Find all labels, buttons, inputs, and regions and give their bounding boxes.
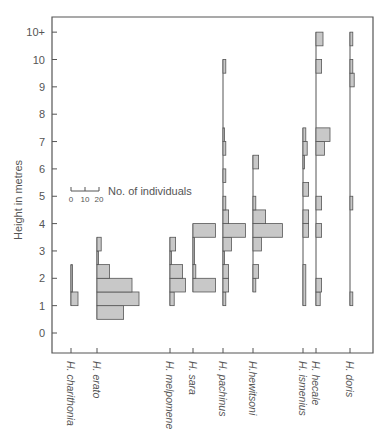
- y-tick-label: 10+: [26, 26, 45, 38]
- species-histogram: [170, 237, 185, 305]
- species-histogram: [303, 128, 309, 306]
- legend: 0 10 20 No. of individuals: [69, 185, 192, 204]
- histogram-bar: [223, 292, 226, 306]
- histogram-bar: [253, 224, 282, 238]
- histogram-bar: [350, 292, 353, 306]
- histogram-bar: [170, 265, 183, 279]
- species-label: H. ismenius: [297, 361, 309, 417]
- histogram-bar: [97, 251, 99, 265]
- histogram-bar: [71, 265, 73, 292]
- histogram-bar: [170, 278, 185, 292]
- histogram-bar: [170, 237, 176, 251]
- histogram-bar: [303, 224, 309, 238]
- histogram-bar: [316, 32, 323, 46]
- y-tick-label: 4: [39, 218, 45, 230]
- y-tick-label: 2: [39, 272, 45, 284]
- y-tick-label: 5: [39, 190, 45, 202]
- histogram-bar: [303, 155, 305, 169]
- histogram-bar: [223, 142, 226, 156]
- y-tick-label: 3: [39, 245, 45, 257]
- histogram-bar: [223, 196, 226, 210]
- histogram-bar: [193, 265, 196, 279]
- species-histograms: [71, 32, 354, 319]
- histogram-bar: [303, 265, 306, 306]
- histogram-bar: [193, 278, 215, 292]
- histogram-bar: [316, 60, 322, 74]
- species-label: H. sara: [187, 361, 199, 395]
- histogram-bar: [223, 210, 229, 224]
- species-label: H. melpomene: [164, 361, 176, 429]
- histogram-bar: [316, 196, 322, 210]
- y-tick-label: 9: [39, 81, 45, 93]
- y-tick-label: 0: [39, 327, 45, 339]
- histogram-bar: [97, 306, 124, 320]
- legend-label: No. of individuals: [108, 185, 192, 197]
- species-label: H. pachinus: [217, 361, 229, 417]
- species-histogram: [253, 155, 282, 292]
- species-histogram: [193, 224, 215, 292]
- histogram-bar: [223, 128, 225, 142]
- legend-scale-0: 0: [69, 195, 74, 204]
- histogram-bar: [223, 169, 226, 183]
- y-tick-label: 8: [39, 108, 45, 120]
- histogram-bar: [316, 292, 320, 306]
- y-axis-title: Height in metres: [12, 159, 24, 240]
- y-tick-label: 7: [39, 136, 45, 148]
- histogram-bar: [223, 251, 225, 265]
- histogram-bar: [303, 210, 309, 224]
- chart-canvas: 01234567891010+ Height in metres 0 10 20…: [0, 0, 389, 436]
- histogram-bar: [316, 224, 322, 238]
- histogram-bar: [350, 32, 353, 46]
- histogram-bar: [253, 155, 259, 169]
- histogram-bar: [316, 128, 330, 142]
- histogram-bar: [303, 183, 309, 197]
- histogram-bar: [253, 278, 256, 292]
- species-label: H. charithonia: [65, 361, 77, 426]
- species-label: H.hewitsoni: [247, 361, 259, 416]
- x-axis-species-labels: H. charithoniaH. eratoH. melpomeneH. sar…: [65, 348, 356, 429]
- histogram-bar: [316, 142, 324, 156]
- histogram-bar: [97, 265, 110, 279]
- histogram-bar: [253, 237, 261, 251]
- histogram-bar: [193, 237, 195, 264]
- species-label: H. hecale: [310, 361, 322, 406]
- histogram-bar: [223, 278, 229, 292]
- legend-scale-10: 10: [81, 195, 90, 204]
- histogram-bar: [253, 210, 266, 224]
- species-label: H. erato: [91, 361, 103, 399]
- histogram-bar: [97, 237, 101, 251]
- species-label: H. doris: [344, 361, 356, 398]
- histogram-bar: [193, 224, 215, 238]
- histogram-bar: [170, 251, 172, 265]
- species-histogram: [71, 265, 78, 306]
- legend-scale-20: 20: [95, 195, 104, 204]
- histogram-bar: [350, 60, 353, 74]
- histogram-bar: [223, 265, 229, 279]
- histogram-bar: [350, 196, 353, 210]
- histogram-bar: [170, 292, 174, 306]
- histogram-bar: [223, 224, 245, 238]
- histogram-bar: [223, 237, 231, 251]
- histogram-bar: [97, 278, 132, 292]
- histogram-bar: [303, 142, 307, 156]
- histogram-bar: [253, 265, 259, 279]
- species-histogram: [97, 237, 139, 319]
- histogram-bar: [350, 73, 354, 87]
- histogram-bar: [223, 60, 226, 74]
- histogram-bar: [303, 128, 306, 142]
- histogram-bar: [316, 278, 322, 292]
- species-histogram: [316, 32, 330, 306]
- y-tick-label: 10: [33, 54, 45, 66]
- histogram-bar: [71, 292, 78, 306]
- histogram-bar: [97, 292, 139, 306]
- y-tick-label: 1: [39, 300, 45, 312]
- y-tick-label: 6: [39, 163, 45, 175]
- species-histogram: [223, 60, 245, 306]
- histogram-bar: [253, 196, 256, 210]
- species-histogram: [350, 32, 354, 306]
